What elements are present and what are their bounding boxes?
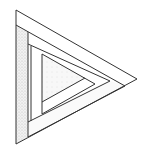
figure-canvas [0,0,147,155]
nested-triangle-drawing [0,0,147,155]
inner-triangle-shading [42,54,85,102]
left-band-shading [16,25,28,144]
